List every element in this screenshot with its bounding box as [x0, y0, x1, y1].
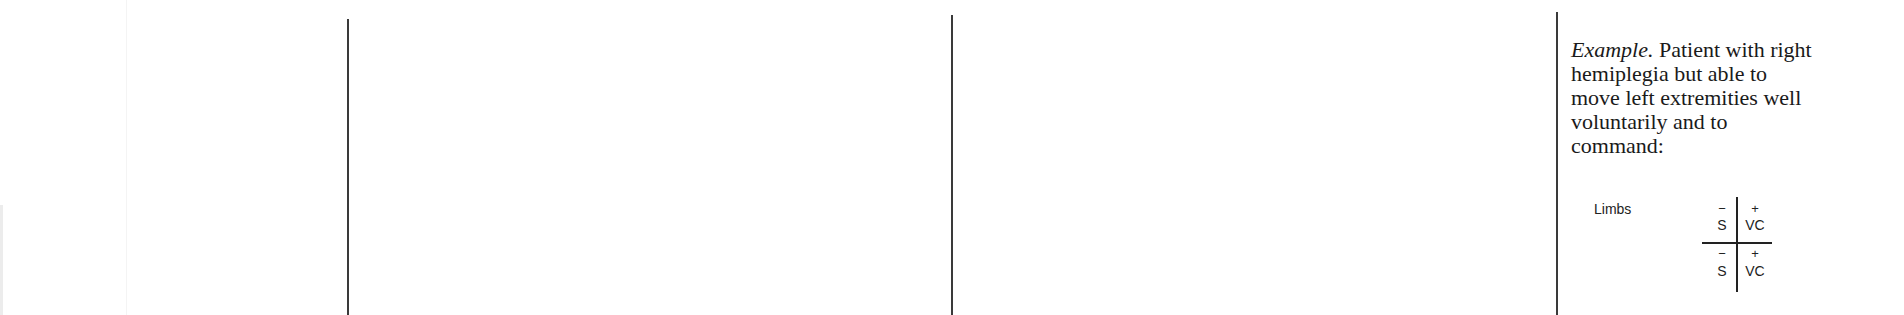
column-divider-3 — [1556, 12, 1558, 315]
top-left-value: S — [1714, 217, 1730, 233]
example-line-1: Example. Patient with right — [1571, 38, 1901, 62]
example-lead: Example. — [1571, 37, 1653, 62]
bottom-left-value: S — [1714, 263, 1730, 279]
quadrant-vertical-line — [1736, 197, 1738, 292]
top-left-sign: − — [1714, 202, 1730, 215]
bottom-right-value: VC — [1740, 263, 1770, 279]
scan-fold-shadow — [126, 0, 127, 315]
column-divider-2 — [951, 15, 953, 315]
example-line-2: hemiplegia but able to — [1571, 62, 1901, 86]
top-right-value: VC — [1740, 217, 1770, 233]
column-divider-1 — [347, 19, 349, 315]
limbs-label: Limbs — [1594, 201, 1631, 217]
example-line-3: move left extremities well — [1571, 86, 1901, 110]
scan-page-edge — [0, 205, 3, 315]
bottom-right-sign: + — [1742, 247, 1768, 260]
example-paragraph: Example. Patient with right hemiplegia b… — [1571, 38, 1901, 158]
example-line-4: voluntarily and to — [1571, 110, 1901, 134]
top-right-sign: + — [1742, 202, 1768, 215]
limbs-quadrant-diagram: − S + VC − S + VC — [1702, 197, 1772, 292]
bottom-left-sign: − — [1714, 247, 1730, 260]
quadrant-horizontal-line — [1702, 242, 1772, 244]
example-line-5: command: — [1571, 134, 1901, 158]
